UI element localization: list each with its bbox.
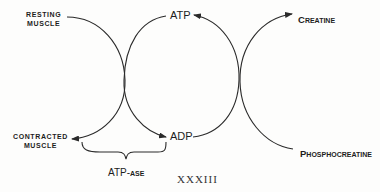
- phosphocreatine-rest: HOSPHOCREATINE: [306, 151, 372, 158]
- resting-muscle-label: RESTING MUSCLE: [26, 11, 61, 27]
- arc-adp-to-atp: [193, 15, 239, 137]
- adp-label: ADP: [170, 131, 193, 142]
- contracted-muscle-label: CONTRACTED MUSCLE: [13, 133, 68, 149]
- arc-atp-to-adp: [124, 16, 166, 137]
- arc-phosphocreatine-to-creatine: [240, 14, 293, 149]
- creatine-initial: C: [298, 14, 305, 25]
- atp-label: ATP: [170, 10, 191, 21]
- arc-resting-to-contracted: [67, 17, 125, 139]
- atpase-brace: [82, 142, 166, 159]
- contracted-label-line2: MUSCLE: [13, 142, 68, 149]
- resting-label-line1: RESTING: [26, 11, 61, 18]
- atp-cycle-diagram: RESTING MUSCLE CONTRACTED MUSCLE ATP ADP…: [0, 0, 380, 192]
- diagram-lines: [0, 0, 380, 192]
- figure-caption: XXXIII: [177, 173, 218, 185]
- phosphocreatine-label: PHOSPHOCREATINE: [300, 144, 372, 160]
- resting-label-line2: MUSCLE: [26, 20, 61, 27]
- contracted-label-line1: CONTRACTED: [13, 133, 68, 140]
- atpase-label: ATP-ASE: [108, 163, 144, 179]
- creatine-label: CREATINE: [298, 10, 335, 26]
- atpase-suffix: ASE: [130, 170, 144, 177]
- creatine-rest: REATINE: [305, 17, 335, 24]
- atpase-main: ATP-: [108, 167, 130, 178]
